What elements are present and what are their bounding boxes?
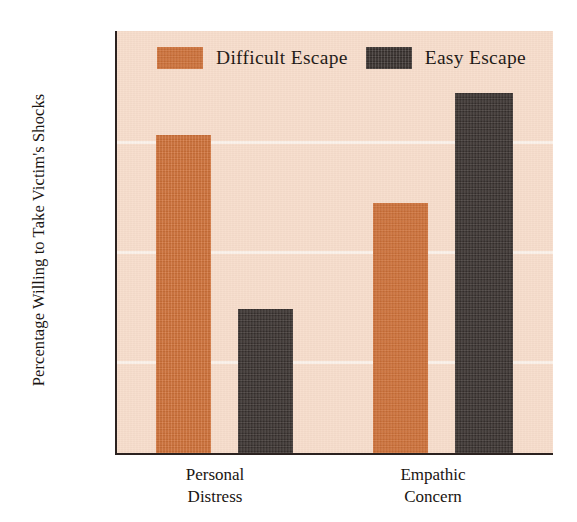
legend-entry-easy-escape: Easy Escape (366, 47, 526, 69)
legend-entry-difficult-escape: Difficult Escape (157, 47, 348, 69)
bar-personal-distress-easy-escape (238, 309, 293, 453)
plot-area: Difficult Escape Easy Escape (115, 31, 553, 455)
legend-label-easy-escape: Easy Escape (425, 48, 526, 68)
x-tick-label-empathic-concern: Empathic Concern (363, 464, 503, 509)
y-axis-title: Percentage Willing to Take Victim's Shoc… (22, 10, 56, 470)
legend-swatch-difficult-escape (157, 47, 203, 69)
legend: Difficult Escape Easy Escape (157, 47, 526, 69)
legend-label-difficult-escape: Difficult Escape (216, 48, 348, 68)
bar-chart-figure: Percentage Willing to Take Victim's Shoc… (0, 0, 577, 522)
x-tick-label-personal-distress: Personal Distress (145, 464, 285, 509)
bar-empathic-concern-easy-escape (455, 93, 513, 453)
legend-swatch-easy-escape (366, 47, 412, 69)
bar-empathic-concern-difficult-escape (373, 203, 428, 453)
bar-personal-distress-difficult-escape (156, 135, 211, 453)
